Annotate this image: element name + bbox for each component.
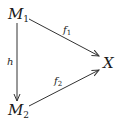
label-f2-sub: 2	[58, 80, 62, 88]
label-h: h	[7, 57, 13, 67]
label-f2: f2	[54, 76, 62, 88]
node-m1: M1	[8, 7, 29, 24]
label-f1: f1	[63, 25, 71, 37]
node-m2: M2	[8, 103, 29, 120]
arrow-f2	[29, 70, 99, 106]
node-x-base: X	[103, 54, 114, 72]
node-m1-base: M	[8, 5, 23, 23]
label-h-text: h	[7, 56, 13, 67]
node-x: X	[103, 56, 114, 71]
node-m2-base: M	[8, 101, 23, 119]
node-m1-sub: 1	[23, 14, 29, 24]
label-f1-sub: 1	[67, 29, 71, 37]
commutative-diagram: M1 M2 X h f1 f2	[0, 0, 118, 126]
node-m2-sub: 2	[23, 110, 29, 120]
